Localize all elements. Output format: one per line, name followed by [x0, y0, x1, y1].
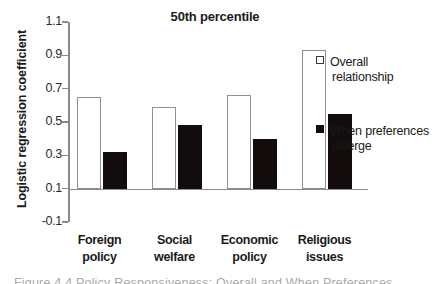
y-axis-tick — [62, 121, 68, 123]
y-axis-tick-label: 0.5 — [28, 114, 62, 128]
category-label-line: Religious — [287, 232, 362, 249]
legend-label-line2: diverge — [330, 139, 436, 154]
category-label-line: Economic — [212, 232, 287, 249]
y-axis-tick — [62, 155, 68, 157]
category-label-line: welfare — [137, 249, 212, 266]
chart-legend: OverallrelationshipWhen preferencesdiver… — [316, 52, 436, 190]
bar-filled-1 — [178, 125, 202, 188]
category-label-2: Economicpolicy — [212, 232, 287, 266]
bar-open-0 — [77, 97, 101, 189]
legend-swatch-filled-icon — [316, 125, 324, 133]
category-label-line: policy — [212, 249, 287, 266]
category-label-line: policy — [62, 249, 137, 266]
category-label-0: Foreignpolicy — [62, 232, 137, 266]
category-label-3: Religiousissues — [287, 232, 362, 266]
y-axis-tick-label: 0.7 — [28, 81, 62, 95]
category-label-line: issues — [287, 249, 362, 266]
y-axis-tick-label: -0.1 — [28, 214, 62, 228]
y-axis-tick — [62, 21, 68, 23]
y-axis-tick — [62, 55, 68, 57]
y-axis-tick — [62, 88, 68, 90]
chart-figure: Logistic regression coefficient 50th per… — [0, 0, 436, 284]
y-axis-tick — [62, 188, 68, 190]
figure-caption-sliver: Figure 4.4 Policy Responsiveness: Overal… — [14, 276, 434, 284]
y-axis-tick — [62, 221, 68, 223]
y-axis-tick-label: 0.9 — [28, 47, 62, 61]
y-axis-tick-label: 0.1 — [28, 181, 62, 195]
category-label-line: Social — [137, 232, 212, 249]
y-axis-tick-labels: 1.10.90.70.50.30.1-0.1 — [26, 22, 62, 222]
category-label-1: Socialwelfare — [137, 232, 212, 266]
legend-label-line2: relationship — [330, 70, 436, 85]
y-axis-line — [68, 22, 70, 222]
category-label-line: Foreign — [62, 232, 137, 249]
legend-swatch-open-icon — [316, 56, 324, 64]
bar-filled-0 — [103, 152, 127, 189]
y-axis-tick-label: 1.1 — [28, 14, 62, 28]
legend-item-1[interactable]: When preferencesdiverge — [316, 121, 436, 154]
bar-filled-2 — [253, 139, 277, 189]
bar-open-2 — [227, 95, 251, 188]
bar-open-1 — [152, 107, 176, 189]
x-axis-category-labels: ForeignpolicySocialwelfareEconomicpolicy… — [68, 232, 368, 278]
legend-label-1: When preferencesdiverge — [330, 124, 436, 154]
legend-item-0[interactable]: Overallrelationship — [316, 52, 436, 85]
legend-label-0: Overallrelationship — [330, 55, 436, 85]
y-axis-tick-label: 0.3 — [28, 147, 62, 161]
